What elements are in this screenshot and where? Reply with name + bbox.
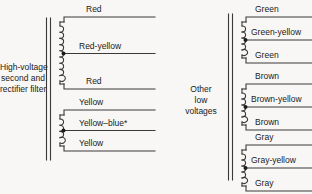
wire-label-yellow-blue: Yellow–blue* [79,119,127,128]
wire-label-yellow-top: Yellow [79,98,103,107]
lead-red-bottom [64,84,155,89]
transformer-winding-diagram: High-voltage second and rectifier filter… [0,0,312,194]
lead-brown-top [246,84,312,89]
wire-label-brown-yellow: Brown-yellow [251,95,302,104]
high-voltage-section-label: High-voltage second and rectifier filter [0,62,46,96]
lead-gray-top [246,145,312,150]
lv-label-line1: Other [177,84,225,95]
wire-label-red-yellow: Red-yellow [79,42,121,51]
hv-label-line2: second and [0,73,46,84]
wire-label-gray-bottom: Gray [255,179,273,188]
lv-label-line2: low [177,95,225,106]
lead-yellow-bottom [64,146,155,151]
wire-label-brown-bottom: Brown [255,118,279,127]
wire-label-brown-top: Brown [255,72,279,81]
wire-label-yellow-bottom: Yellow [79,139,103,148]
dot-brown-yellow [244,105,248,109]
wire-label-green-top: Green [255,5,279,14]
wire-label-red-top: Red [86,5,102,14]
wire-label-green-yellow: Green-yellow [251,28,301,37]
low-voltage-section-label: Other low voltages [177,84,225,118]
hv-label-line3: rectifier filter [0,84,46,95]
wire-label-red-bottom: Red [86,77,102,86]
dot-green-yellow [244,38,248,42]
wire-label-green-bottom: Green [255,51,279,60]
lead-red-top [64,17,155,22]
wire-label-gray-yellow: Gray-yellow [251,156,296,165]
dot-gray-yellow [244,166,248,170]
lv-label-line3: voltages [177,106,225,117]
hv-label-line1: High-voltage [0,62,46,73]
dot-red-yellow [62,52,66,56]
lead-green-top [246,17,312,22]
dot-yellow-blue [62,129,66,133]
wire-label-gray-top: Gray [255,133,273,142]
lead-yellow-top [64,110,155,115]
